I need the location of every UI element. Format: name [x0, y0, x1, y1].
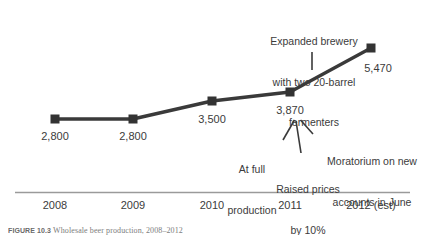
data-point-marker	[129, 115, 138, 124]
x-axis-label-2011: 2011	[250, 199, 330, 212]
x-axis-label-2008: 2008	[15, 199, 95, 212]
data-point-marker	[208, 97, 217, 106]
annotation-line: Expanded brewery	[252, 35, 376, 49]
figure-caption-prefix: FIGURE 10.3	[8, 227, 51, 234]
figure-caption: FIGURE 10.3 Wholesale beer production, 2…	[8, 226, 308, 235]
annotation-moratorium: Moratorium on new accounts in June	[320, 128, 424, 235]
data-label-2009: 2,800	[103, 130, 163, 143]
data-label-2008: 2,800	[25, 130, 85, 143]
data-label-2010: 3,500	[182, 113, 242, 126]
figure-caption-text: Wholesale beer production, 2008–2012	[53, 226, 183, 235]
x-axis-label-2012: 2012 (est)	[331, 199, 411, 212]
x-axis-label-2009: 2009	[93, 199, 173, 212]
annotation-line: Moratorium on new	[320, 155, 424, 169]
figure-container: 2,800 2,800 3,500 3,870 5,470 Expanded b…	[0, 0, 429, 235]
data-point-marker	[51, 115, 60, 124]
x-axis-label-2010: 2010	[172, 199, 252, 212]
annotation-line: with two 20-barrel	[252, 76, 376, 90]
